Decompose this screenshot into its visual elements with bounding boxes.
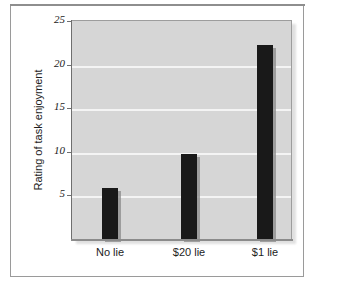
bar	[181, 154, 197, 239]
bar	[257, 45, 273, 239]
y-axis-tick	[67, 152, 72, 153]
x-axis-tick-label: No lie	[65, 246, 155, 258]
y-axis-tick-label: 5	[60, 188, 66, 199]
y-axis-tick-label: 25	[54, 14, 65, 25]
bar	[102, 188, 118, 239]
x-axis-tick-label: $1 lie	[220, 246, 310, 258]
y-axis-tick-label: 10	[54, 145, 65, 156]
figure-bar-chart: 510152025 No lie$20 lie$1 lie Rating of …	[0, 0, 342, 284]
y-axis-tick-label: 15	[54, 101, 65, 112]
y-axis-title: Rating of task enjoyment	[30, 20, 46, 240]
y-axis-tick	[67, 108, 72, 109]
y-axis-tick	[67, 195, 72, 196]
y-axis-spine	[71, 20, 72, 240]
y-axis-tick-label: 20	[54, 58, 65, 69]
y-axis-tick	[67, 21, 72, 22]
y-axis-tick	[67, 65, 72, 66]
y-axis-title-text: Rating of task enjoyment	[32, 69, 44, 190]
